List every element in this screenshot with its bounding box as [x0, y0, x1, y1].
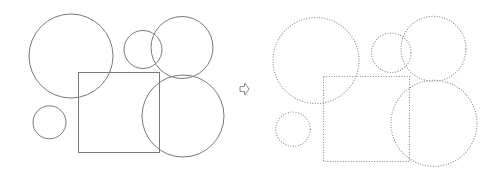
right-arrow-icon: [240, 83, 249, 95]
before-shapes-group: [29, 14, 224, 157]
dotted-circle-4: [391, 80, 477, 166]
after-shapes-group: [273, 16, 477, 166]
solid-circle-5: [33, 106, 66, 139]
solid-square: [79, 73, 160, 153]
dotted-circle-5: [276, 112, 310, 146]
dotted-circle-2: [372, 33, 411, 72]
solid-circle-4: [142, 75, 224, 157]
diagram-svg: [0, 0, 503, 176]
diagram-canvas: [0, 0, 503, 176]
dotted-circle-1: [273, 18, 359, 104]
dotted-square: [324, 77, 410, 162]
dotted-circle-3: [401, 16, 466, 81]
solid-circle-1: [29, 14, 113, 98]
solid-circle-3: [151, 17, 213, 79]
arrow-outline: [240, 83, 249, 95]
solid-circle-2: [124, 31, 162, 69]
